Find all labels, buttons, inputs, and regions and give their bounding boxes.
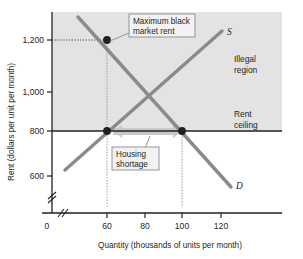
- y-tick-label-1200: 1,200: [22, 35, 44, 45]
- illegal-region-label-line1: Illegal: [234, 54, 256, 64]
- x-tick-label-80: 80: [140, 221, 150, 231]
- rent-ceiling-label-line2: ceiling: [234, 120, 258, 130]
- x-axis-title: Quantity (thousands of units per month): [98, 241, 242, 250]
- y-tick-label-800: 800: [30, 126, 45, 136]
- shortage-quantity-supplied-point: [103, 127, 111, 135]
- shortage-quantity-demanded-point: [178, 127, 186, 135]
- illegal-region-label-line2: region: [234, 65, 258, 75]
- y-axis-ticks: [47, 40, 52, 176]
- maximum-black-market-rent-line1: Maximum black: [133, 17, 191, 26]
- chart-canvas: 1,200 1,000 800 600 0 60 80 100 120 Rent…: [0, 0, 303, 259]
- housing-shortage-annotation: Housing shortage: [112, 136, 159, 170]
- demand-curve-label: D: [235, 181, 243, 191]
- supply-curve-label: S: [227, 27, 232, 37]
- y-tick-label-1000: 1,000: [22, 87, 44, 97]
- x-tick-label-0: 0: [45, 221, 50, 231]
- x-tick-label-120: 120: [214, 221, 229, 231]
- housing-shortage-line2: shortage: [116, 160, 148, 169]
- maximum-black-market-rent-line2: market rent: [133, 27, 175, 36]
- rent-ceiling-chart-figure: 1,200 1,000 800 600 0 60 80 100 120 Rent…: [0, 0, 303, 259]
- x-tick-label-100: 100: [175, 221, 190, 231]
- x-tick-label-60: 60: [102, 221, 112, 231]
- housing-shortage-leader: [145, 136, 150, 148]
- y-tick-label-600: 600: [30, 171, 45, 181]
- maximum-black-market-rent-point: [103, 36, 111, 44]
- rent-ceiling-label-line1: Rent: [234, 109, 252, 119]
- x-axis-ticks: [107, 213, 221, 218]
- y-axis-title: Rent (dollars per unit per month): [7, 63, 16, 181]
- housing-shortage-line1: Housing: [116, 150, 146, 159]
